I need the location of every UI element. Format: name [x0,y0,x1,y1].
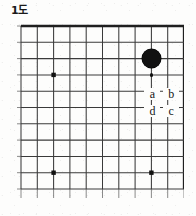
intersection-marker-dot [150,73,154,77]
star-point [51,73,55,77]
go-diagram-figure: 1도 abdc [0,0,196,216]
board-point-label-d[interactable]: d [144,105,160,117]
black-stone[interactable] [142,49,161,68]
board-point-label-b[interactable]: b [163,88,179,100]
star-point [149,171,153,175]
board-point-label-c[interactable]: c [163,105,179,117]
go-board[interactable]: abdc [17,22,184,208]
star-point [51,171,55,175]
board-point-label-a[interactable]: a [144,88,160,100]
figure-title: 1도 [11,4,28,17]
